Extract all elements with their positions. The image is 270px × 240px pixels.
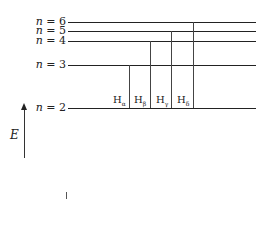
transition-label-h-delta: Hδ [177,95,189,109]
transition-label-h-alpha: Hα [113,95,126,109]
energy-axis-label: E [10,128,19,142]
transition-label-h-beta: Hβ [134,95,146,109]
transition-line-h-gamma [171,31,172,108]
level-line-n4 [68,41,256,42]
level-line-n6 [68,22,256,23]
transition-line-h-alpha [129,65,130,108]
level-label-n3: n = 3 [0,59,66,70]
transition-line-h-delta [193,22,194,108]
level-label-n4: n = 4 [0,35,66,46]
level-line-n5 [68,31,256,32]
energy-arrow-head-icon [21,103,27,110]
level-label-n2: n = 2 [0,102,66,113]
energy-axis [24,110,25,158]
bottom-tick-mark [66,192,67,199]
transition-label-h-gamma: Hγ [156,95,168,109]
level-line-n3 [68,65,256,66]
transition-line-h-beta [150,41,151,108]
